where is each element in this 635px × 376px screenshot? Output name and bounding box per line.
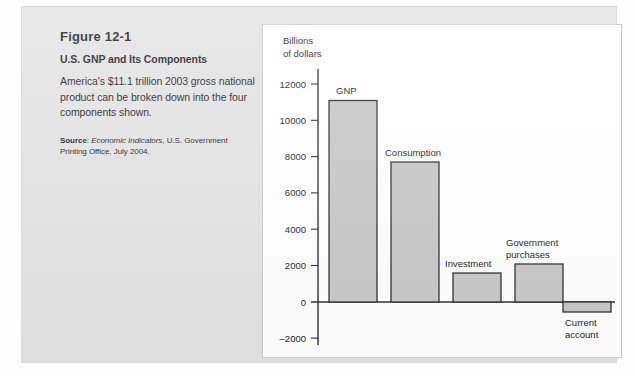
figure-description: America's $11.1 trillion 2003 gross nati… bbox=[60, 74, 256, 121]
bar-rect-current-account[interactable] bbox=[563, 302, 611, 312]
y-tick-label: 12000 bbox=[280, 79, 306, 90]
bar-label-current-account-line2: account bbox=[565, 329, 599, 340]
bar-investment[interactable]: Investment bbox=[445, 258, 501, 303]
bar-label-government-purchases-line2: purchases bbox=[506, 249, 550, 260]
figure-source: Source: Economic Indicators, U.S. Govern… bbox=[60, 135, 256, 158]
figure-caption-block: Figure 12-1 U.S. GNP and Its Components … bbox=[60, 29, 256, 158]
y-tick-label: 2000 bbox=[285, 260, 306, 271]
y-tick-6000: 6000 bbox=[285, 187, 318, 198]
bar-label-investment: Investment bbox=[445, 258, 492, 269]
y-axis-title-line1: Billions bbox=[283, 35, 313, 46]
y-tick-8000: 8000 bbox=[285, 151, 318, 162]
figure-number: Figure 12-1 bbox=[60, 29, 256, 44]
y-tick-label: 10000 bbox=[280, 115, 306, 126]
chart-panel: Billions of dollars 12000 10000 bbox=[262, 24, 622, 358]
figure-box: Figure 12-1 U.S. GNP and Its Components … bbox=[22, 7, 616, 362]
y-tick-label: –2000 bbox=[280, 333, 306, 344]
bar-current-account[interactable]: Current account bbox=[563, 302, 611, 340]
page-root: Figure 12-1 U.S. GNP and Its Components … bbox=[0, 0, 635, 376]
bar-rect-investment[interactable] bbox=[453, 273, 501, 302]
source-publication: Economic Indicators bbox=[91, 136, 162, 145]
bar-rect-gnp[interactable] bbox=[329, 101, 377, 303]
bar-rect-consumption[interactable] bbox=[391, 162, 439, 302]
bar-gnp[interactable]: GNP bbox=[329, 85, 377, 302]
y-tick-label: 4000 bbox=[285, 224, 306, 235]
bar-label-consumption: Consumption bbox=[385, 147, 441, 158]
source-label: Source bbox=[60, 136, 87, 145]
bar-label-current-account-line1: Current bbox=[565, 317, 597, 328]
y-tick-label: 8000 bbox=[285, 151, 306, 162]
bar-government-purchases[interactable]: Government purchases bbox=[506, 237, 563, 303]
bar-label-gnp: GNP bbox=[336, 85, 357, 96]
y-axis-ticks: 12000 10000 8000 6000 bbox=[280, 79, 318, 344]
y-tick-0: 0 bbox=[301, 297, 306, 308]
bars-group: GNP Consumption Investment Government pu… bbox=[329, 85, 611, 340]
y-tick-2000: 2000 bbox=[285, 260, 318, 271]
bar-rect-government-purchases[interactable] bbox=[515, 264, 563, 302]
y-tick-4000: 4000 bbox=[285, 224, 318, 235]
y-axis-title-line2: of dollars bbox=[283, 48, 322, 59]
y-tick-10000: 10000 bbox=[280, 115, 318, 126]
y-tick-12000: 12000 bbox=[280, 79, 318, 90]
y-tick-label: 6000 bbox=[285, 187, 306, 198]
bar-chart: Billions of dollars 12000 10000 bbox=[263, 25, 623, 359]
figure-title: U.S. GNP and Its Components bbox=[60, 53, 256, 65]
bar-label-government-purchases-line1: Government bbox=[506, 237, 559, 248]
bar-consumption[interactable]: Consumption bbox=[385, 147, 441, 303]
y-tick-label: 0 bbox=[301, 297, 306, 308]
y-tick-neg2000: –2000 bbox=[280, 333, 318, 344]
